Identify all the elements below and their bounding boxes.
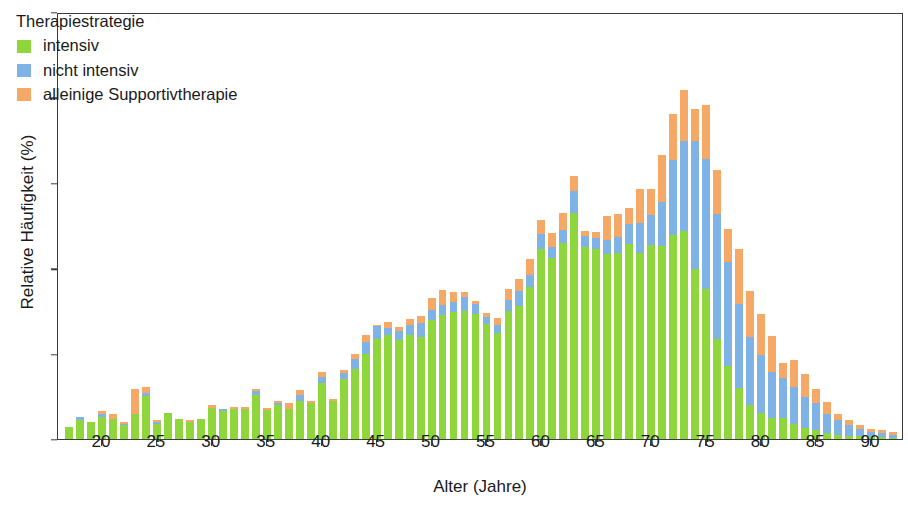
- bar: [768, 336, 776, 439]
- bar: [570, 176, 578, 439]
- bar-segment: [680, 231, 688, 439]
- bar-segment: [790, 360, 798, 386]
- bar-segment: [559, 213, 567, 230]
- bar-segment: [834, 435, 842, 439]
- bar: [702, 105, 710, 439]
- bar-segment: [439, 305, 447, 315]
- bar: [526, 259, 534, 439]
- bar-segment: [515, 306, 523, 439]
- x-tick-mark: [431, 440, 432, 446]
- bar-segment: [746, 291, 754, 336]
- bar-segment: [548, 258, 556, 439]
- bar-segment: [823, 414, 831, 433]
- bar-segment: [450, 312, 458, 439]
- bar: [625, 208, 633, 439]
- bar: [120, 422, 128, 439]
- bar-segment: [362, 342, 370, 354]
- bar-segment: [702, 159, 710, 289]
- bar-segment: [680, 90, 688, 141]
- bar-segment: [889, 438, 897, 439]
- bar-segment: [296, 395, 304, 402]
- legend-item-label: intensiv: [43, 34, 99, 57]
- bar-segment: [494, 325, 502, 334]
- x-tick-mark: [266, 440, 267, 446]
- bar: [472, 301, 480, 439]
- bar-segment: [636, 223, 644, 253]
- legend-item-label: alleinige Supportivtherapie: [43, 83, 237, 106]
- bar-segment: [570, 213, 578, 439]
- bar: [428, 298, 436, 439]
- bar-segment: [318, 383, 326, 439]
- y-tick-mark: [51, 183, 57, 184]
- bar-segment: [658, 246, 666, 439]
- bar-segment: [636, 253, 644, 439]
- legend-item: intensiv: [14, 34, 237, 57]
- bar: [559, 213, 567, 439]
- bar: [362, 335, 370, 439]
- bar-segment: [768, 336, 776, 372]
- x-tick-mark: [540, 440, 541, 446]
- bar-segment: [439, 315, 447, 439]
- bar-segment: [658, 202, 666, 246]
- bar-segment: [592, 249, 600, 439]
- bar: [373, 325, 381, 439]
- bar-segment: [417, 316, 425, 323]
- x-tick-mark: [321, 440, 322, 446]
- bar-segment: [757, 355, 765, 413]
- bar: [647, 189, 655, 439]
- bar-segment: [340, 379, 348, 439]
- bar-segment: [450, 292, 458, 302]
- bar-segment: [801, 374, 809, 397]
- chart-figure: Relative Häufigkeit (%) 0123452025303540…: [0, 0, 908, 505]
- bar-segment: [757, 314, 765, 355]
- bar-segment: [614, 237, 622, 252]
- bar: [285, 403, 293, 439]
- bar-segment: [351, 359, 359, 369]
- bar: [889, 432, 897, 439]
- bar: [801, 374, 809, 439]
- bar-segment: [713, 339, 721, 439]
- bar-segment: [570, 191, 578, 212]
- bar: [406, 319, 414, 439]
- bar: [669, 114, 677, 439]
- bar-segment: [230, 409, 238, 439]
- bar-segment: [483, 317, 491, 324]
- bar-segment: [647, 189, 655, 215]
- bar-segment: [439, 290, 447, 305]
- bar-segment: [461, 297, 469, 311]
- bar: [515, 279, 523, 439]
- bar: [834, 414, 842, 439]
- bar-segment: [537, 249, 545, 439]
- bar-segment: [362, 354, 370, 439]
- bar-segment: [559, 230, 567, 243]
- bar-segment: [373, 326, 381, 339]
- bar-segment: [625, 208, 633, 223]
- bar-segment: [801, 397, 809, 428]
- legend: Therapiestrategie intensivnicht intensiv…: [14, 10, 237, 108]
- bar: [790, 360, 798, 439]
- bar-segment: [548, 247, 556, 258]
- bar-segment: [669, 235, 677, 439]
- bar-segment: [603, 240, 611, 254]
- bar: [505, 289, 513, 439]
- bar-segment: [515, 279, 523, 291]
- bar-segment: [614, 214, 622, 237]
- bar-segment: [713, 170, 721, 214]
- x-tick-mark: [815, 440, 816, 446]
- bar-segment: [428, 298, 436, 310]
- legend-swatch-icon: [17, 64, 31, 77]
- bar-segment: [505, 300, 513, 311]
- x-tick-mark: [485, 440, 486, 446]
- bar-segment: [691, 269, 699, 439]
- bar-segment: [428, 320, 436, 439]
- bar: [351, 354, 359, 439]
- bar-segment: [581, 236, 589, 247]
- x-tick-mark: [595, 440, 596, 446]
- y-tick-mark: [51, 439, 57, 440]
- bar-segment: [537, 234, 545, 249]
- bar-segment: [428, 310, 436, 320]
- bar-segment: [603, 254, 611, 439]
- x-tick-mark: [650, 440, 651, 446]
- bar-segment: [395, 340, 403, 439]
- bar-segment: [384, 328, 392, 335]
